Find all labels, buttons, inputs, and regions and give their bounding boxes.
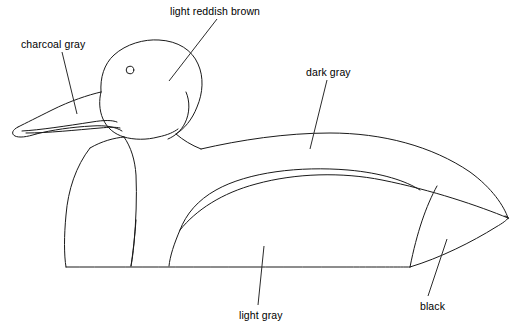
label-light-reddish-brown: light reddish brown [170,5,260,17]
leader-line-dark-gray [310,80,327,149]
leader-line-light-gray [258,246,264,305]
leader-line-black [428,239,447,296]
tail-lower-outline [410,218,508,267]
chest-left-outline [65,148,91,267]
eye-icon [126,66,134,74]
tail-division-arc [410,186,437,267]
breast-front-outline [124,137,136,266]
label-charcoal-gray: charcoal gray [21,38,85,50]
label-light-gray: light gray [239,309,283,321]
head-inner-contour [168,92,189,139]
bill-seam-line-secondary [26,127,120,133]
chest-upper-outline [90,137,124,148]
leader-line-light-reddish-brown [169,19,217,81]
label-black: black [420,300,445,312]
label-dark-gray: dark gray [306,66,351,78]
shoulder-inner-outline [131,220,136,266]
flank-outline [169,230,180,266]
bill-tip-outline [13,127,36,137]
bill-upper-outline [18,92,101,127]
neck-back-outline [176,134,201,149]
duck-decoy-diagram: charcoal gray light reddish brown dark g… [0,0,520,331]
back-lower-outline [180,175,508,230]
